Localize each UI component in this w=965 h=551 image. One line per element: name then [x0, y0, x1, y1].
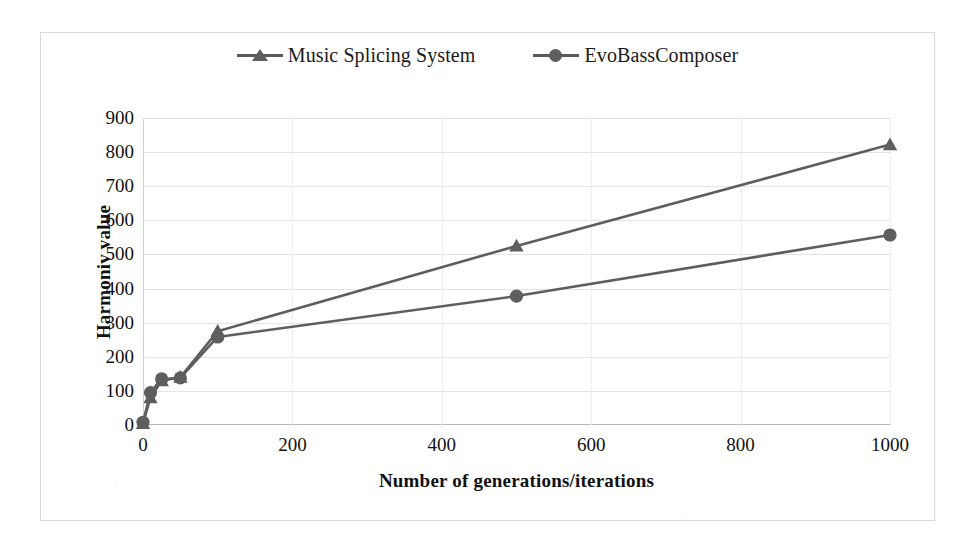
series-line-evobasscomposer: [143, 235, 890, 422]
data-point-circle-marker: [510, 289, 523, 302]
y-axis-tick-label: 0: [125, 414, 135, 436]
data-point-circle-marker: [883, 228, 896, 241]
y-axis-tick-label: 100: [106, 380, 135, 402]
legend-entry-music-splicing-system: Music Splicing System: [237, 44, 476, 67]
chart-legend: Music Splicing System EvoBassComposer: [40, 32, 935, 78]
chart-figure: Music Splicing System EvoBassComposer Ha…: [0, 0, 965, 551]
x-axis-tick-label: 1000: [871, 434, 909, 456]
y-axis-tick-label: 400: [106, 278, 135, 300]
vertical-gridline: [890, 118, 891, 425]
y-axis-tick-label: 700: [106, 175, 135, 197]
y-axis-tick-label: 900: [106, 107, 135, 129]
plot-area: 0100200300400500600700800900 02004006008…: [143, 118, 890, 425]
data-point-circle-marker: [211, 330, 224, 343]
circle-marker-icon: [533, 47, 579, 63]
x-axis-tick-label: 400: [428, 434, 457, 456]
y-axis-tick-label: 300: [106, 312, 135, 334]
y-axis-tick-label: 200: [106, 346, 135, 368]
data-point-circle-marker: [144, 386, 157, 399]
legend-entry-evobasscomposer: EvoBassComposer: [533, 44, 738, 67]
y-axis-tick-label: 600: [106, 209, 135, 231]
x-axis-tick-label: 0: [138, 434, 148, 456]
triangle-marker-icon: [237, 47, 283, 63]
x-axis-title: Number of generations/iterations: [143, 470, 890, 492]
legend-label-evobasscomposer: EvoBassComposer: [584, 44, 738, 67]
series-line-music-splicing-system: [143, 145, 890, 424]
x-axis-tick-label: 600: [577, 434, 606, 456]
x-axis-tick-label: 800: [726, 434, 755, 456]
series-plot: [143, 118, 890, 425]
data-point-circle-marker: [136, 416, 149, 429]
data-point-circle-marker: [174, 371, 187, 384]
x-axis-tick-label: 200: [278, 434, 307, 456]
data-point-circle-marker: [155, 372, 168, 385]
y-axis-tick-label: 500: [106, 243, 135, 265]
y-axis-tick-label: 800: [106, 141, 135, 163]
y-axis-title-container: Harmoniv value: [46, 118, 86, 425]
legend-label-music-splicing-system: Music Splicing System: [288, 44, 476, 67]
